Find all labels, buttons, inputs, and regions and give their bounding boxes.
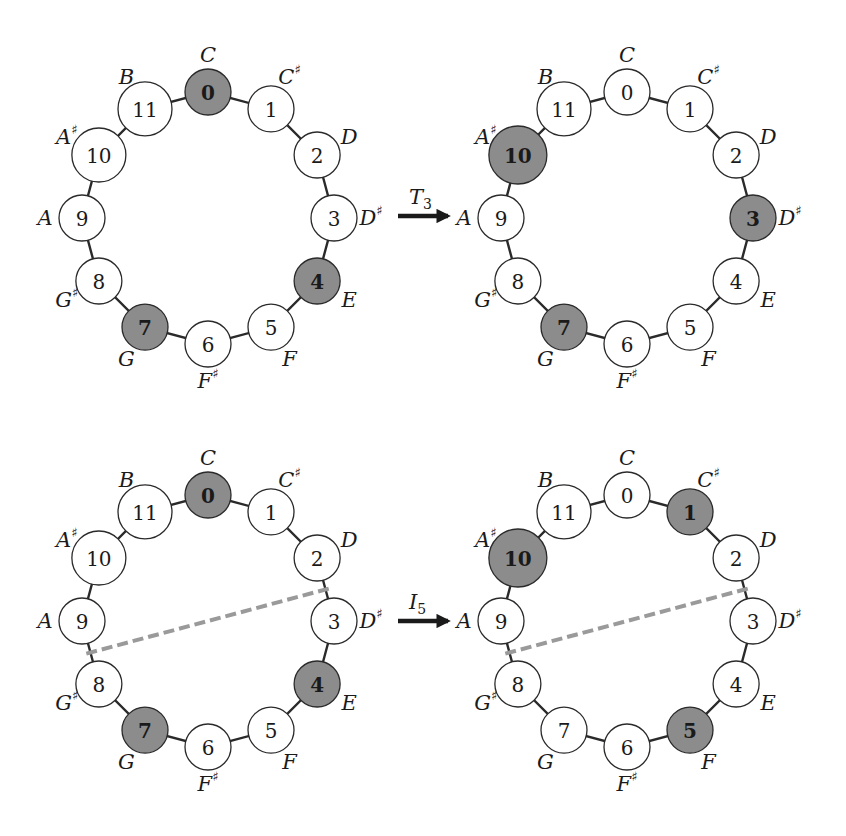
- pitch-node-3: 3D♯: [311, 195, 383, 241]
- note-name-label: C♯: [278, 61, 300, 89]
- note-name-label: E: [340, 691, 356, 715]
- pitch-class-number: 1: [684, 98, 697, 122]
- sharp-sign: ♯: [71, 121, 77, 136]
- pitch-node-10: 10A♯: [54, 524, 126, 585]
- pitch-node-7: 7G: [537, 707, 587, 774]
- pitch-node-6: 6F♯: [185, 724, 231, 796]
- inversion-axis: [505, 588, 748, 653]
- inversion-axis: [86, 588, 329, 653]
- pitch-node-8: 8G♯: [474, 661, 541, 715]
- pitch-class-number: 8: [512, 673, 525, 697]
- pitch-class-number: 0: [201, 81, 215, 105]
- ring-edges: [82, 92, 334, 344]
- note-name-label: D♯: [777, 606, 801, 634]
- note-name-label: C: [200, 446, 216, 470]
- pitch-node-0: 0C: [185, 446, 231, 518]
- note-name-label: E: [759, 288, 775, 312]
- pitch-node-10: 10A♯: [54, 121, 126, 182]
- operation-subscript: 5: [417, 601, 426, 617]
- note-name-label: B: [118, 468, 134, 492]
- pitch-class-number: 10: [504, 547, 532, 571]
- pitch-node-0: 0C: [604, 446, 650, 518]
- note-name-label: F♯: [616, 769, 638, 797]
- note-name-label: A: [35, 609, 52, 633]
- pitch-node-4: 4E: [713, 661, 776, 715]
- pitch-node-2: 2D: [713, 528, 777, 582]
- pitch-node-9: 9A: [35, 195, 105, 241]
- pitch-class-number: 1: [265, 98, 278, 122]
- pitch-node-6: 6F♯: [185, 321, 231, 393]
- pitch-node-3: 3D♯: [730, 598, 802, 644]
- panels-layer: 0C1C♯2D3D♯4E5F6F♯7G8G♯9A10A♯11B0C1C♯2D3D…: [35, 43, 801, 796]
- pitch-node-4: 4E: [294, 661, 357, 715]
- pitch-node-11: 11B: [537, 65, 591, 136]
- pitch-class-number: 2: [730, 547, 743, 571]
- pitch-class-number: 7: [138, 719, 152, 743]
- note-name-label: C: [619, 43, 635, 67]
- pitch-class-number: 10: [504, 144, 532, 168]
- note-name-label: D: [340, 125, 358, 149]
- pitch-node-0: 0C: [185, 43, 231, 115]
- sharp-sign: ♯: [795, 203, 801, 218]
- note-name-label: G: [537, 750, 554, 774]
- pitch-class-number: 6: [202, 333, 215, 357]
- sharp-sign: ♯: [490, 121, 496, 136]
- invert-operation: I5: [398, 590, 448, 621]
- pitch-node-4: 4E: [713, 258, 776, 312]
- note-name-label: G: [537, 347, 554, 371]
- pitch-class-number: 2: [730, 144, 743, 168]
- pitch-node-6: 6F♯: [604, 724, 650, 796]
- pitch-class-number: 7: [557, 316, 571, 340]
- note-name-label: D♯: [358, 203, 382, 231]
- pitch-node-3: 3D♯: [311, 598, 383, 644]
- ring-edges: [501, 495, 753, 747]
- pitch-node-9: 9A: [454, 195, 524, 241]
- sharp-sign: ♯: [212, 769, 218, 784]
- clock-bottom-left: 0C1C♯2D3D♯4E5F6F♯7G8G♯9A10A♯11B: [35, 446, 382, 796]
- sharp-sign: ♯: [212, 366, 218, 381]
- note-name-label: A: [35, 206, 52, 230]
- pitch-node-1: 1C♯: [248, 464, 301, 535]
- note-name-label: G♯: [474, 284, 497, 312]
- pitch-class-number: 0: [621, 484, 634, 508]
- pitch-node-10: 10A♯: [473, 121, 547, 184]
- sharp-sign: ♯: [795, 606, 801, 621]
- note-name-label: B: [537, 468, 553, 492]
- sharp-sign: ♯: [631, 366, 637, 381]
- pitch-class-number: 10: [86, 144, 111, 168]
- note-name-label: F♯: [197, 366, 219, 394]
- note-name-label: G♯: [55, 284, 78, 312]
- transpose-operation: T3: [398, 185, 448, 216]
- pitch-node-4: 4E: [294, 258, 357, 312]
- pitch-class-number: 1: [683, 501, 697, 525]
- pitch-node-8: 8G♯: [55, 258, 122, 312]
- pitch-node-2: 2D: [294, 528, 358, 582]
- pitch-class-number: 4: [310, 270, 324, 294]
- pitch-class-number: 3: [746, 207, 760, 231]
- operations-layer: T3I5: [398, 185, 448, 621]
- clock-top-right: 0C1C♯2D3D♯4E5F6F♯7G8G♯9A10A♯11B: [454, 43, 801, 393]
- sharp-sign: ♯: [376, 606, 382, 621]
- note-name-label: G: [118, 750, 135, 774]
- pitch-class-number: 0: [201, 484, 215, 508]
- sharp-sign: ♯: [72, 284, 78, 299]
- pitch-node-8: 8G♯: [55, 661, 122, 715]
- note-name-label: B: [118, 65, 134, 89]
- pitch-class-number: 1: [265, 501, 278, 525]
- pitch-node-1: 1C♯: [667, 464, 720, 535]
- note-name-label: E: [340, 288, 356, 312]
- note-name-label: A: [454, 609, 471, 633]
- note-name-label: D♯: [777, 203, 801, 231]
- pitch-class-number: 9: [495, 610, 508, 634]
- sharp-sign: ♯: [491, 687, 497, 702]
- pitch-node-7: 7G: [537, 304, 587, 371]
- note-name-label: D: [759, 125, 777, 149]
- pitch-class-number: 7: [138, 316, 152, 340]
- note-name-label: C♯: [697, 61, 719, 89]
- pitch-class-number: 4: [730, 673, 743, 697]
- pitch-class-number: 8: [93, 270, 106, 294]
- pitch-class-number: 5: [683, 719, 697, 743]
- pitch-node-9: 9A: [35, 598, 105, 644]
- pitch-class-number: 11: [132, 501, 157, 525]
- pitch-node-3: 3D♯: [730, 195, 802, 241]
